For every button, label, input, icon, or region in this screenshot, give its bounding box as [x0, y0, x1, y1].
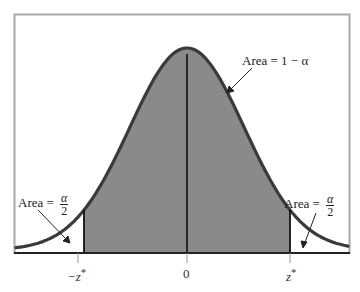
tick-label-neg-z: −z* — [67, 266, 86, 285]
right-tail-area-label: Area = α2 — [284, 193, 334, 218]
normal-curve-chart — [0, 0, 360, 292]
left-tail-prefix: Area = — [18, 195, 57, 210]
right-tail-prefix: Area = — [284, 196, 323, 211]
frac-den: 2 — [327, 206, 333, 218]
star: * — [81, 266, 86, 278]
star: * — [291, 266, 296, 278]
tick-label-pos-z: z* — [286, 266, 296, 285]
frac-den: 2 — [61, 205, 67, 217]
alpha-over-2: α2 — [60, 192, 68, 217]
tick-neg-text: −z — [67, 269, 81, 284]
alpha-over-2: α2 — [326, 193, 334, 218]
tick-label-zero: 0 — [183, 266, 190, 282]
center-area-label: Area = 1 − α — [242, 53, 308, 69]
left-tail-area-label: Area = α2 — [18, 192, 68, 217]
